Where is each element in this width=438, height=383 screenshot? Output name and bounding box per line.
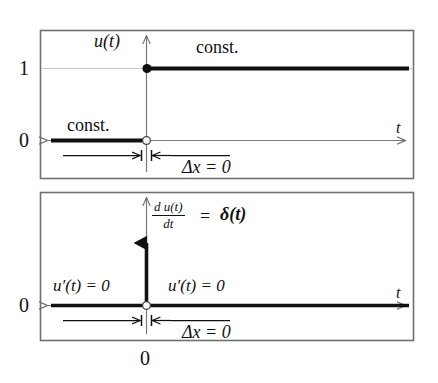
origin-open-dot: [143, 302, 151, 310]
derivative-equals-sign: =: [200, 207, 210, 225]
bottom-t-axis-label: t: [396, 285, 400, 301]
derivative-fraction: d u(t) dt: [152, 200, 185, 230]
closed-dot-at-one: [142, 64, 151, 73]
top-ytick-zero: 0: [19, 130, 29, 150]
derivative-zero-label-right: u′(t) = 0: [168, 277, 225, 294]
top-ytick-one: 1: [19, 58, 29, 78]
dirac-delta-label: δ(t): [220, 205, 246, 223]
bottom-ytick-zero: 0: [19, 295, 29, 315]
top-delta-x-label: Δx = 0: [182, 158, 231, 176]
top-t-axis-label: t: [396, 120, 400, 136]
open-dot-at-zero: [143, 137, 151, 145]
figure-container: 1 0 u(t) const. const. t Δx = 0 d u(t) d…: [0, 0, 438, 383]
u-of-t-label: u(t): [94, 32, 120, 50]
origin-x-label: 0: [140, 348, 150, 368]
derivative-denominator: dt: [152, 216, 185, 231]
const-label-right: const.: [196, 38, 239, 56]
derivative-numerator: d u(t): [152, 200, 185, 216]
bottom-delta-x-label: Δx = 0: [182, 323, 231, 341]
derivative-zero-label-left: u′(t) = 0: [53, 277, 110, 294]
const-label-left: const.: [67, 116, 110, 134]
